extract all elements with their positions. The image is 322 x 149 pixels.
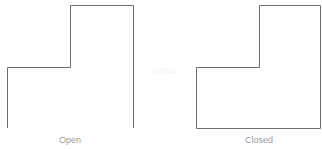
center-watermark: Symbol	[152, 67, 175, 74]
shapes-canvas	[0, 0, 322, 149]
closed-polygon-shape	[197, 6, 321, 129]
open-label: Open	[59, 135, 81, 145]
closed-label: Closed	[245, 135, 273, 145]
open-polyline-shape	[8, 6, 134, 129]
